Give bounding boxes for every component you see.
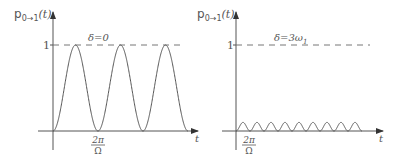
right-xtick-denominator: Ω: [245, 146, 252, 156]
left-ylabel: p0→1(t): [14, 7, 52, 23]
left-curve: [53, 45, 188, 131]
right-ytick-label: 1: [227, 39, 234, 52]
left-chart: p0→1(t) 1 δ=0 2π Ω t: [14, 7, 200, 156]
right-ylabel: p0→1(t): [197, 7, 235, 23]
left-xlabel: t: [195, 133, 200, 144]
right-chart: p0→1(t) 1 δ=3ω1 2π Ω t: [197, 7, 384, 156]
left-xtick-denominator: Ω: [94, 146, 101, 156]
right-xlabel: t: [379, 133, 384, 144]
left-ytick-label: 1: [43, 39, 50, 52]
right-annotation: δ=3ω1: [274, 32, 307, 46]
left-annotation: δ=0: [88, 32, 109, 43]
right-curve: [236, 122, 362, 131]
figure: p0→1(t) 1 δ=0 2π Ω t p0→1(t) 1 δ=3ω1 2π …: [0, 0, 400, 164]
left-xtick-numerator: 2π: [91, 135, 105, 145]
right-xtick-numerator: 2π: [242, 135, 256, 145]
